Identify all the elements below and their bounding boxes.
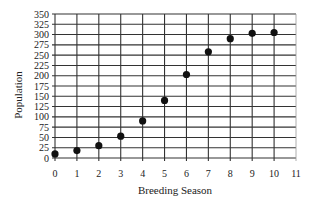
y-tick-label: 200 <box>34 70 49 81</box>
x-tick-label: 1 <box>74 168 79 179</box>
data-point <box>249 30 256 37</box>
data-point <box>183 71 190 78</box>
data-point <box>51 150 58 157</box>
y-tick-label: 0 <box>44 153 49 164</box>
y-tick-label: 300 <box>34 29 49 40</box>
y-tick-label: 125 <box>34 101 49 112</box>
y-tick-label: 175 <box>34 81 49 92</box>
y-tick-label: 25 <box>39 142 49 153</box>
data-point <box>117 133 124 140</box>
y-tick-label: 325 <box>34 19 49 30</box>
x-tick-label: 7 <box>206 168 211 179</box>
x-tick-label: 10 <box>269 168 279 179</box>
y-tick-label: 275 <box>34 39 49 50</box>
data-point <box>139 117 146 124</box>
x-tick-label: 5 <box>162 168 167 179</box>
chart-grid <box>52 14 296 161</box>
data-point <box>205 48 212 55</box>
x-axis-title: Breeding Season <box>138 184 213 196</box>
y-axis-title: Population <box>12 71 24 119</box>
x-tick-label: 9 <box>250 168 255 179</box>
x-tick-label: 6 <box>184 168 189 179</box>
y-tick-label: 50 <box>39 132 49 143</box>
x-tick-label: 11 <box>291 168 301 179</box>
y-tick-label: 350 <box>34 9 49 20</box>
data-point <box>227 35 234 42</box>
y-tick-label: 75 <box>39 122 49 133</box>
data-point <box>270 29 277 36</box>
x-tick-label: 0 <box>53 168 58 179</box>
scatter-chart: 0255075100125150175200225250275300325350… <box>0 0 318 210</box>
x-axis-ticks: 01234567891011 <box>53 168 301 179</box>
y-tick-label: 100 <box>34 111 49 122</box>
data-point <box>161 97 168 104</box>
x-tick-label: 4 <box>140 168 145 179</box>
y-tick-label: 150 <box>34 91 49 102</box>
y-tick-label: 225 <box>34 60 49 71</box>
x-tick-label: 3 <box>118 168 123 179</box>
data-point <box>95 142 102 149</box>
x-tick-label: 8 <box>228 168 233 179</box>
y-tick-label: 250 <box>34 50 49 61</box>
data-point <box>73 147 80 154</box>
y-axis-ticks: 0255075100125150175200225250275300325350 <box>34 9 49 164</box>
x-tick-label: 2 <box>96 168 101 179</box>
